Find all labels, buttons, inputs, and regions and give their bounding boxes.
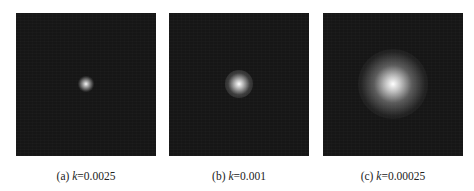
caption-value: =0.00025 (381, 170, 425, 182)
caption-prefix: (b) (212, 170, 228, 182)
caption-b: (b) k=0.001 (169, 170, 309, 182)
caption-prefix: (a) (57, 170, 73, 182)
gaussian-spot (225, 70, 253, 98)
gaussian-spot (78, 76, 94, 92)
gaussian-spot (358, 49, 428, 119)
panel-c-image (323, 13, 463, 156)
caption-a: (a) k=0.0025 (16, 170, 156, 182)
panel-b-image (169, 13, 309, 156)
panel-a-image (16, 13, 156, 156)
caption-value: =0.0025 (77, 170, 115, 182)
caption-c: (c) k=0.00025 (323, 170, 463, 182)
caption-prefix: (c) (361, 170, 377, 182)
caption-value: =0.001 (234, 170, 266, 182)
